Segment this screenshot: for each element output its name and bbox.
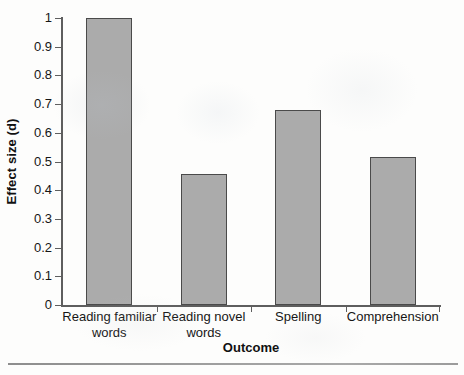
y-tick-label-0-4: 0.4	[34, 181, 52, 198]
plot-area: 0 0.1 0.2 0.3 0.4 0.5 0.6 0.7	[62, 18, 440, 305]
x-category-label-reading-novel-words: Reading novel words	[157, 309, 252, 341]
y-tick-label-0-8: 0.8	[34, 66, 52, 83]
y-tick-label-0-3: 0.3	[34, 210, 52, 227]
x-category-label-comprehension: Comprehension	[346, 309, 441, 325]
bar-reading-familiar-words	[86, 18, 132, 305]
bar-reading-novel-words	[181, 174, 227, 305]
x-category-label-reading-familiar-words: Reading familiar words	[62, 309, 157, 341]
bar-chart-figure: Effect size (d) 0 0.1 0.2 0.3 0.4 0.5	[0, 0, 464, 375]
y-tick-label-0-5: 0.5	[34, 153, 52, 170]
bar-comprehension	[370, 157, 416, 305]
y-tick-label-1: 1	[45, 9, 52, 26]
y-tick-label-0-2: 0.2	[34, 239, 52, 256]
x-axis-title: Outcome	[62, 340, 440, 355]
y-tick-label-0-6: 0.6	[34, 124, 52, 141]
y-axis-title: Effect size (d)	[4, 18, 22, 305]
x-category-line-1: Comprehension	[346, 309, 441, 325]
x-category-line-2: words	[62, 325, 157, 341]
x-category-line-1: Reading novel	[157, 309, 252, 325]
x-category-line-1: Spelling	[251, 309, 346, 325]
y-tick-label-0-9: 0.9	[34, 38, 52, 55]
x-category-line-2: words	[157, 325, 252, 341]
bottom-divider-rule	[8, 363, 458, 365]
y-tick-label-0-7: 0.7	[34, 95, 52, 112]
x-category-label-spelling: Spelling	[251, 309, 346, 325]
y-tick-label-0: 0	[45, 296, 52, 313]
y-tick-label-0-1: 0.1	[34, 267, 52, 284]
x-category-line-1: Reading familiar	[62, 309, 157, 325]
bar-spelling	[275, 110, 321, 305]
